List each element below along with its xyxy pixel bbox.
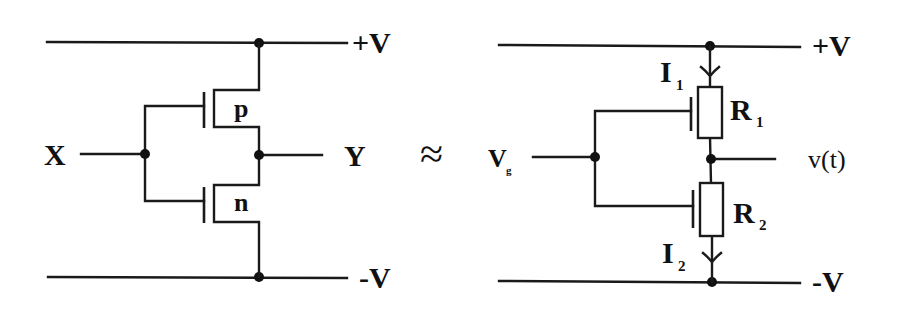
label-nmos-n: n bbox=[234, 188, 249, 217]
label-r1-sub: 1 bbox=[756, 114, 764, 130]
input-junction-right bbox=[590, 152, 600, 162]
label-vg-sub: g bbox=[506, 164, 512, 176]
approx-symbol: ≈ bbox=[420, 131, 443, 177]
label-plus-v-right: +V bbox=[812, 29, 851, 62]
bottom-rail-right bbox=[499, 281, 800, 283]
resistor-r1 bbox=[698, 87, 722, 138]
label-i1-sub: 1 bbox=[676, 77, 684, 93]
label-minus-v-left: -V bbox=[359, 261, 391, 294]
label-minus-v-right: -V bbox=[812, 265, 844, 298]
label-i1-main: I bbox=[660, 55, 672, 88]
output-junction-left bbox=[254, 150, 264, 160]
label-r1-main: R bbox=[730, 93, 752, 126]
label-r2-main: R bbox=[733, 196, 755, 229]
nmos-transistor bbox=[204, 155, 259, 277]
top-rail-left bbox=[47, 42, 347, 43]
label-pmos-p: p bbox=[234, 94, 248, 123]
top-rail-right bbox=[499, 45, 800, 47]
label-plus-v-left: +V bbox=[352, 26, 391, 59]
resistor-r2 bbox=[700, 183, 723, 236]
label-output-vt: v(t) bbox=[808, 145, 846, 174]
label-i2-main: I bbox=[662, 236, 674, 269]
output-junction-right bbox=[706, 154, 716, 164]
label-r2-sub: 2 bbox=[759, 217, 767, 233]
bottom-rail-left bbox=[48, 277, 347, 278]
resistor-model-circuit: +V -V V g v(t) I 1 I 2 R 1 R 2 bbox=[488, 29, 851, 298]
circuit-diagram: +V -V X Y p n ≈ +V bbox=[0, 0, 901, 310]
cmos-inverter-circuit: +V -V X Y p n bbox=[44, 26, 391, 294]
label-input-x: X bbox=[44, 138, 66, 171]
input-junction-left bbox=[140, 149, 150, 159]
label-vg-main: V bbox=[488, 144, 507, 173]
gate-wires-right bbox=[595, 111, 693, 206]
label-i2-sub: 2 bbox=[678, 258, 686, 274]
label-output-y: Y bbox=[344, 139, 366, 172]
